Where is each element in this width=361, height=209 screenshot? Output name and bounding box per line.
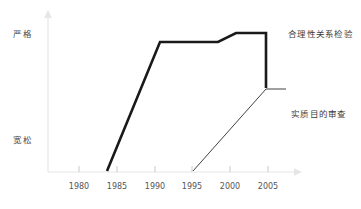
y-axis-label-lenient: 宽松 [13,136,32,145]
x-tick-label-1980: 1980 [64,183,94,191]
series-line-substantive-review [193,89,286,171]
x-tick-label-1990: 1990 [140,183,170,191]
x-tick-label-1995: 1995 [177,183,207,191]
x-tick-label-2000: 2000 [215,183,245,191]
series-line-rationality-test [107,33,266,171]
x-tick-label-1985: 1985 [102,183,132,191]
x-axis-arrow-icon [294,168,302,176]
series-annotation-substantive-review: 实质目的审查 [291,110,347,119]
series-annotation-rationality-test: 合理性关系检验 [288,30,353,39]
y-axis-arrow-icon [44,10,52,18]
chart-container: 严格 宽松 1980 1985 1990 1995 2000 2005 合理性关… [0,0,361,209]
x-tick-label-2005: 2005 [253,183,283,191]
y-axis-label-strict: 严格 [13,30,32,39]
